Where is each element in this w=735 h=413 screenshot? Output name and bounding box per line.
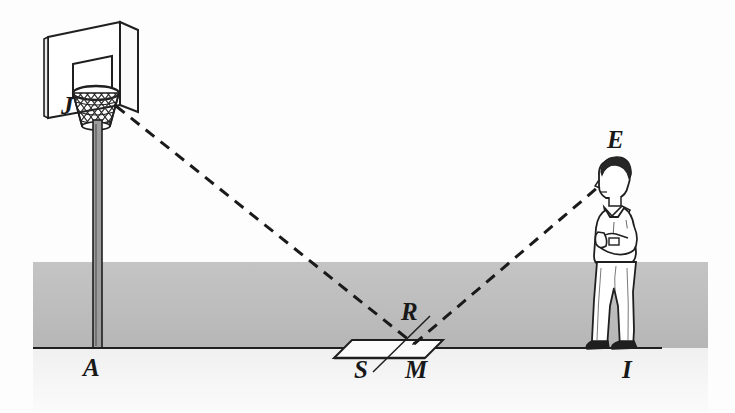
label-E: E	[607, 127, 624, 152]
label-R: R	[401, 299, 418, 324]
label-M: M	[405, 357, 427, 382]
label-I: I	[622, 357, 632, 382]
mirror-reflection-figure: J A E R S M I	[0, 0, 735, 413]
hoop-support-pole	[93, 120, 102, 348]
label-A: A	[83, 355, 100, 380]
label-S: S	[354, 357, 368, 382]
label-J: J	[61, 93, 74, 118]
figure-canvas	[0, 0, 735, 413]
